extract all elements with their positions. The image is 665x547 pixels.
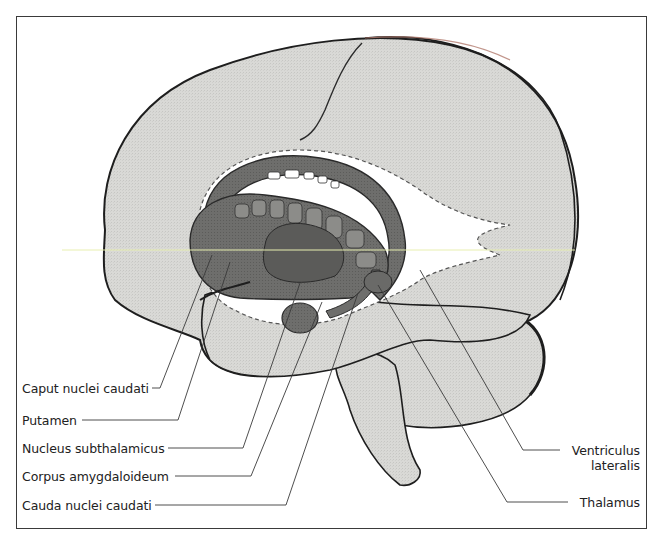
amygdala	[282, 303, 318, 333]
brain-illustration	[0, 0, 665, 547]
label-corpus-amygdaloideum: Corpus amygdaloideum	[22, 469, 169, 484]
label-nucleus-subthalamicus: Nucleus subthalamicus	[22, 441, 165, 456]
label-thalamus: Thalamus	[580, 495, 640, 510]
label-ventriculus-lateralis: Ventriculus lateralis	[572, 443, 640, 473]
thalamus	[364, 271, 392, 293]
label-ventriculus-line1: Ventriculus	[572, 443, 640, 458]
label-ventriculus-line2: lateralis	[572, 458, 640, 473]
label-caput-nuclei-caudati: Caput nuclei caudati	[22, 381, 149, 396]
label-cauda-nuclei-caudati: Cauda nuclei caudati	[22, 498, 152, 513]
label-putamen: Putamen	[22, 413, 77, 428]
